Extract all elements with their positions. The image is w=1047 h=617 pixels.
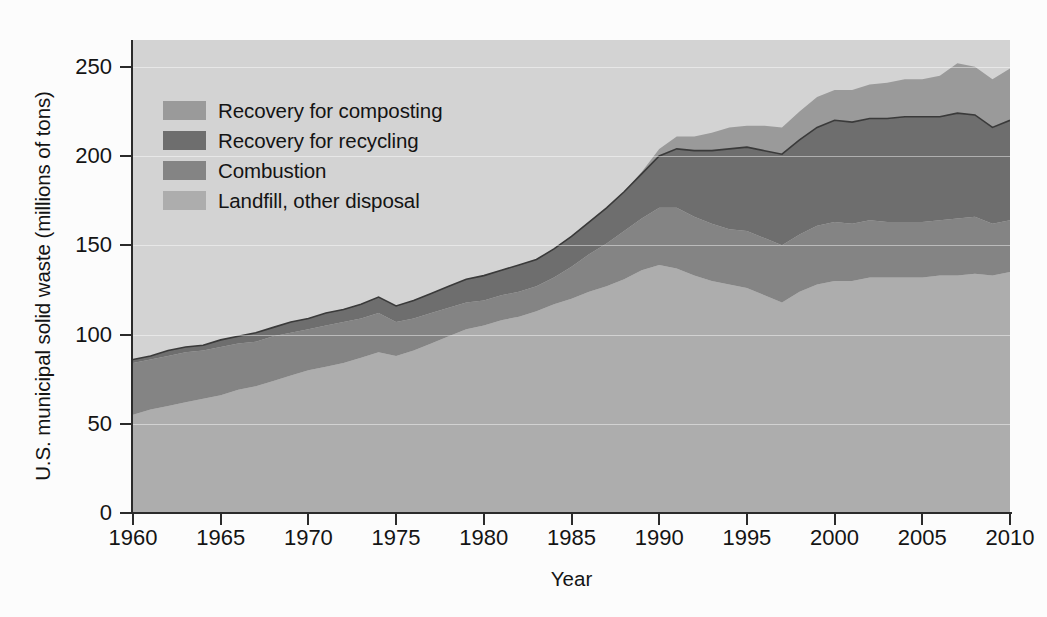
y-tick-mark [120,512,131,514]
y-tick-label: 50 [40,413,112,435]
x-tick-label: 1990 [614,527,704,549]
y-tick-label: 100 [40,324,112,346]
y-axis-line [131,40,133,514]
x-axis-label: Year [133,567,1010,591]
x-tick-label: 2010 [965,527,1047,549]
x-tick-label: 1995 [702,527,792,549]
legend-swatch-landfill [163,191,206,210]
y-tick-mark [120,423,131,425]
x-tick-label: 1965 [176,527,266,549]
gridline [133,335,1010,336]
gridline [133,156,1010,157]
x-tick-label: 1975 [351,527,441,549]
x-tick-mark [834,514,836,525]
x-tick-mark [658,514,660,525]
y-tick-label: 150 [40,234,112,256]
gridline [133,245,1010,246]
x-tick-mark [746,514,748,525]
legend-item-recycling[interactable]: Recovery for recycling [163,126,442,155]
x-tick-label: 2005 [877,527,967,549]
x-tick-label: 1960 [88,527,178,549]
x-tick-label: 1970 [263,527,353,549]
legend-swatch-recycling [163,131,206,150]
x-tick-mark [307,514,309,525]
y-tick-mark [120,334,131,336]
y-axis-label: U.S. municipal solid waste (millions of … [31,46,55,526]
x-tick-mark [1009,514,1011,525]
y-tick-label: 200 [40,145,112,167]
x-tick-label: 2000 [790,527,880,549]
gridline [133,67,1010,68]
y-tick-mark [120,155,131,157]
y-tick-mark [120,66,131,68]
y-tick-label: 250 [40,56,112,78]
x-tick-label: 1985 [527,527,617,549]
x-tick-mark [571,514,573,525]
legend-label-combustion: Combustion [218,159,326,183]
legend-label-recycling: Recovery for recycling [218,129,419,153]
legend-item-composting[interactable]: Recovery for composting [163,96,442,125]
x-tick-mark [220,514,222,525]
y-tick-mark [120,244,131,246]
x-tick-mark [132,514,134,525]
legend-swatch-combustion [163,161,206,180]
legend-item-landfill[interactable]: Landfill, other disposal [163,186,442,215]
legend-item-combustion[interactable]: Combustion [163,156,442,185]
x-tick-label: 1980 [439,527,529,549]
x-tick-mark [921,514,923,525]
legend-label-landfill: Landfill, other disposal [218,189,420,213]
legend-label-composting: Recovery for composting [218,99,442,123]
y-tick-label: 0 [40,502,112,524]
chart-figure: U.S. municipal solid waste (millions of … [0,0,1047,617]
x-tick-mark [395,514,397,525]
x-tick-mark [483,514,485,525]
gridline [133,424,1010,425]
legend-swatch-composting [163,101,206,120]
